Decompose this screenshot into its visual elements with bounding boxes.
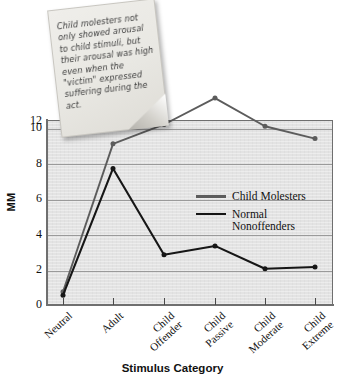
x-tick-5 <box>315 298 316 305</box>
legend-entry-child-molesters: Child Molesters <box>196 190 306 203</box>
y-axis-title: MM <box>5 182 17 222</box>
x-tick-2 <box>164 298 165 305</box>
sticky-note-text: Child molesters not only showed arousal … <box>56 11 162 113</box>
data-point <box>213 96 218 101</box>
x-tick-3 <box>215 298 216 305</box>
y-tick-label-4: 4 <box>16 228 42 240</box>
x-tick-label-child-offender: Child Offender <box>129 310 185 363</box>
y-tick-label-6: 6 <box>16 192 42 204</box>
x-tick-label-child-passive: Child Passive <box>180 310 236 363</box>
gridline-2 <box>48 271 332 272</box>
x-tick-0 <box>63 298 64 305</box>
gridline-8 <box>48 164 332 165</box>
x-tick-1 <box>113 298 114 305</box>
y-tick-label-0: 0 <box>16 298 42 310</box>
x-axis-title: Stimulus Category <box>0 362 345 374</box>
legend-swatch-normal-nonoffenders <box>196 213 226 216</box>
legend-label-child-molesters: Child Molesters <box>232 190 306 203</box>
x-axis-line <box>46 304 334 306</box>
x-tick-label-child-extreme: Child Extreme <box>280 310 336 363</box>
y-tick-label-2: 2 <box>16 263 42 275</box>
chart-figure: 0 2 4 6 8 10 12 MM Neutral Adult Child O… <box>0 0 345 383</box>
x-tick-label-child-moderate: Child Moderate <box>230 310 286 363</box>
y-tick-label-12: 12 <box>16 114 42 126</box>
sticky-note-annotation: Child molesters not only showed arousal … <box>47 0 169 138</box>
legend-entry-normal-nonoffenders: Normal Nonoffenders <box>196 208 306 233</box>
y-axis-line <box>46 119 48 306</box>
legend-swatch-child-molesters <box>196 195 226 198</box>
chart-legend: Child Molesters Normal Nonoffenders <box>196 190 306 238</box>
y-tick-label-8: 8 <box>16 157 42 169</box>
legend-label-normal-nonoffenders: Normal Nonoffenders <box>232 208 295 233</box>
x-tick-4 <box>265 298 266 305</box>
